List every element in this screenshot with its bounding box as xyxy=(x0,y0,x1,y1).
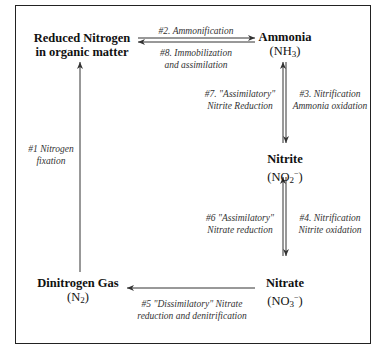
node-ammonia-name: Ammonia xyxy=(252,30,318,44)
node-nitrate: Nitrate (NO3−) xyxy=(255,276,315,312)
label-immobilization: #8. Immobilization and assimilation xyxy=(140,47,252,71)
node-ammonia-formula: (NH3) xyxy=(252,44,318,62)
node-nitrite: Nitrite (NO2−) xyxy=(255,152,315,188)
node-dinitrogen-formula: (N2) xyxy=(32,290,124,308)
label-ammonia-oxidation: #3. Nitrification Ammonia oxidation xyxy=(291,88,369,112)
node-nitrite-name: Nitrite xyxy=(255,152,315,166)
node-organic-nitrogen: Reduced Nitrogen in organic matter xyxy=(30,31,134,59)
label-nitrite-oxidation: #4. Nitrification Nitrite oxidation xyxy=(291,212,369,236)
node-dinitrogen-name: Dinitrogen Gas xyxy=(32,276,124,290)
node-dinitrogen: Dinitrogen Gas (N2) xyxy=(32,276,124,308)
node-nitrate-formula: (NO3−) xyxy=(255,290,315,312)
node-organic-line2: in organic matter xyxy=(30,45,134,59)
label-ammonification: #2. Ammonification xyxy=(140,25,252,37)
node-organic-line1: Reduced Nitrogen xyxy=(30,31,134,45)
node-ammonia: Ammonia (NH3) xyxy=(252,30,318,62)
node-nitrite-formula: (NO2−) xyxy=(255,166,315,188)
label-assimilatory-nitrite-reduction: #7. "Assimilatory" Nitrite Reduction xyxy=(200,88,280,112)
label-assimilatory-nitrate-reduction: #6 "Assimilatory" Nitrate reduction xyxy=(200,212,280,236)
node-nitrate-name: Nitrate xyxy=(255,276,315,290)
label-nitrogen-fixation: #1 Nitrogen fixation xyxy=(24,143,78,167)
label-denitrification: #5 "Dissimilatory" Nitrate reduction and… xyxy=(130,298,254,322)
